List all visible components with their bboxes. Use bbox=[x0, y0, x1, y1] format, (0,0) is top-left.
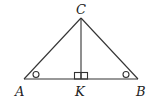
label-b: B bbox=[135, 84, 146, 99]
segment-ca bbox=[24, 18, 81, 79]
label-k: K bbox=[74, 84, 86, 99]
label-c: C bbox=[76, 2, 86, 17]
angle-mark-b bbox=[123, 72, 129, 78]
label-a: A bbox=[14, 84, 24, 99]
angle-mark-a bbox=[33, 72, 39, 78]
triangle-diagram: C A K B bbox=[0, 0, 152, 110]
segment-cb bbox=[81, 18, 138, 79]
